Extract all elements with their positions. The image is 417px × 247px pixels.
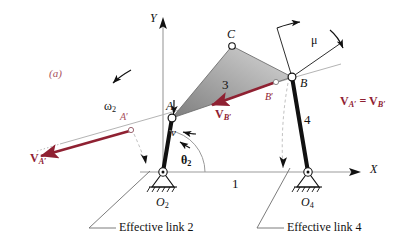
ground-pivot-O2 bbox=[147, 168, 177, 192]
link-4-number: 4 bbox=[304, 113, 311, 126]
velocity-label-VA-prime: VA′ bbox=[30, 152, 46, 166]
effective-link-2-construction bbox=[134, 134, 147, 164]
joint-label-B: B bbox=[300, 77, 307, 89]
velocity-label-VB-prime-V: V bbox=[215, 107, 224, 121]
o4-subscript: 4 bbox=[310, 201, 314, 210]
velocity-equality-equation: VA′ = VB′ bbox=[340, 95, 385, 109]
mu-label: μ bbox=[311, 34, 317, 46]
joint-A-prime bbox=[128, 127, 133, 132]
velocity-label-VA-prime-V: V bbox=[30, 151, 39, 165]
equation-rhs-V: V bbox=[369, 94, 378, 108]
equation-lhs-V: V bbox=[340, 94, 349, 108]
velocity-label-VB-prime: VB′ bbox=[215, 108, 231, 122]
figure-caption: (a) bbox=[49, 68, 62, 79]
link-1-number: 1 bbox=[232, 177, 239, 190]
axis-x bbox=[140, 168, 361, 176]
ground-pivot-label-O4: O4 bbox=[301, 196, 314, 210]
omega2-rotation-arrow bbox=[113, 70, 131, 83]
joint-C bbox=[229, 43, 236, 50]
o2-letter: O bbox=[156, 195, 165, 209]
linkage-drawing bbox=[0, 0, 417, 247]
velocity-label-VB-prime-sub: B′ bbox=[224, 113, 232, 122]
omega2-label: ω2 bbox=[104, 100, 116, 114]
joint-label-A-prime: A′ bbox=[120, 112, 128, 122]
axis-x-label: X bbox=[370, 163, 377, 175]
equation-rhs-sub: B′ bbox=[378, 100, 386, 109]
ground-pivot-label-O2: O2 bbox=[156, 196, 169, 210]
equation-equals: = bbox=[356, 94, 369, 108]
callout-leader-effective-link-4 bbox=[257, 168, 290, 228]
joint-B bbox=[288, 73, 296, 81]
velocity-label-VA-prime-sub: A′ bbox=[39, 157, 47, 166]
o4-letter: O bbox=[301, 195, 310, 209]
theta2-label: θ2 bbox=[181, 154, 191, 168]
link-3-number: 3 bbox=[222, 78, 229, 91]
joint-label-B-prime-prime-mark: ′ bbox=[271, 91, 273, 102]
joint-B-prime bbox=[273, 79, 278, 84]
slip-velocity-label: v bbox=[171, 127, 176, 138]
o2-subscript: 2 bbox=[165, 201, 169, 210]
joint-label-A: A bbox=[166, 100, 173, 112]
joint-label-B-prime: B′ bbox=[265, 92, 273, 102]
axis-y-label: Y bbox=[150, 12, 157, 24]
omega2-subscript: 2 bbox=[112, 105, 116, 114]
joint-label-C: C bbox=[227, 28, 235, 40]
velocity-vector-a-prime bbox=[41, 130, 133, 156]
mu-transmission-angle bbox=[277, 22, 343, 77]
callout-effective-link-2: Effective link 2 bbox=[119, 221, 193, 233]
ground-pivot-O4 bbox=[292, 168, 322, 192]
omega2-symbol: ω bbox=[104, 99, 112, 113]
figure-canvas: (a) Y X A B C A′ B′ ω2 θ2 μ v 3 4 1 O2 O… bbox=[0, 0, 417, 247]
callout-effective-link-4: Effective link 4 bbox=[287, 221, 361, 233]
joint-label-A-prime-prime-mark: ′ bbox=[126, 111, 128, 122]
joint-A bbox=[168, 114, 176, 122]
effective-link-4-construction bbox=[279, 83, 288, 168]
theta2-subscript: 2 bbox=[187, 159, 191, 168]
